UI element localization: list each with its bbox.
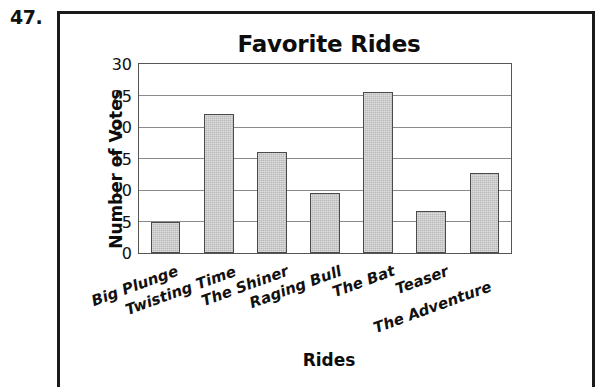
x-axis-tick-label: The Adventure xyxy=(371,278,494,337)
gridline xyxy=(139,95,511,96)
problem-number: 47. xyxy=(10,6,42,28)
bar xyxy=(310,193,340,253)
y-axis-tick-label: 20 xyxy=(112,118,132,137)
y-axis-tick-label: 0 xyxy=(122,244,132,263)
chart-title: Favorite Rides xyxy=(60,31,597,57)
gridline xyxy=(139,190,511,191)
y-axis-tick-label: 30 xyxy=(112,55,132,74)
bar xyxy=(363,92,393,253)
x-axis-tick-labels: Big PlungeTwisting TimeThe ShinerRaging … xyxy=(138,254,512,344)
figure-frame: Favorite Rides Number of Votes 051015202… xyxy=(57,11,595,387)
bar xyxy=(257,152,287,253)
y-axis-tick-label: 10 xyxy=(112,181,132,200)
bar xyxy=(151,222,181,254)
gridline xyxy=(139,127,511,128)
bar xyxy=(470,173,500,253)
gridline xyxy=(139,158,511,159)
y-axis-tick-label: 25 xyxy=(112,86,132,105)
worksheet-page: 47. Favorite Rides Number of Votes 05101… xyxy=(0,0,597,388)
x-axis-title: Rides xyxy=(60,350,597,370)
bar xyxy=(416,211,446,253)
x-axis-tick-label: Teaser xyxy=(393,262,451,298)
bar xyxy=(204,114,234,253)
y-axis-tick-label: 15 xyxy=(112,149,132,168)
plot-area: 051015202530 xyxy=(138,63,512,254)
y-axis-tick-label: 5 xyxy=(122,212,132,231)
